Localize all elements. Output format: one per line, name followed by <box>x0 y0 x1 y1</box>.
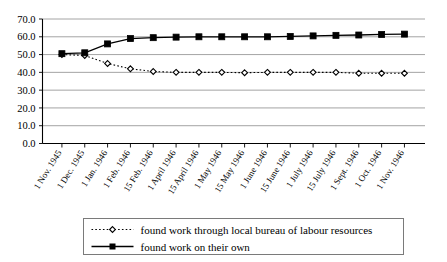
y-axis-tick-label: 20.0 <box>17 103 35 114</box>
data-point-marker <box>196 34 202 40</box>
data-point-marker <box>196 69 202 75</box>
data-point-marker <box>219 34 225 40</box>
data-point-marker <box>333 32 339 38</box>
data-point-marker <box>379 31 385 37</box>
series-line-1 <box>62 55 405 74</box>
data-point-marker <box>59 51 65 57</box>
legend-label-1: found work through local bureau of labou… <box>141 224 373 236</box>
data-point-marker <box>356 32 362 38</box>
data-point-marker <box>265 69 271 75</box>
data-point-marker <box>82 50 88 56</box>
y-axis-tick-label: 0.0 <box>22 138 35 149</box>
data-point-marker <box>310 33 316 39</box>
chart-container: 0.010.020.030.040.050.060.070.0 1 Nov. 1… <box>0 0 447 262</box>
y-axis-tick-label: 50.0 <box>17 49 35 60</box>
y-axis-tick-label: 30.0 <box>17 85 35 96</box>
y-axis-tick-label: 70.0 <box>17 14 35 25</box>
data-point-marker <box>287 33 293 39</box>
data-point-marker <box>264 34 270 40</box>
legend-marker-2 <box>110 244 116 250</box>
data-point-marker <box>333 69 339 75</box>
data-point-marker <box>150 69 156 75</box>
legend-label-2: found work on their own <box>141 241 251 253</box>
data-point-marker <box>310 69 316 75</box>
data-point-marker <box>128 66 134 72</box>
x-axis-labels-group: 1 Nov. 19451 Dec. 19451 Jan. 19461 Feb. … <box>32 148 407 196</box>
data-point-marker <box>173 34 179 40</box>
x-axis-ticks-group <box>62 144 405 148</box>
data-point-marker <box>401 31 407 37</box>
line-chart: 0.010.020.030.040.050.060.070.0 1 Nov. 1… <box>0 0 447 262</box>
data-point-marker <box>356 70 362 76</box>
data-point-marker <box>105 61 111 67</box>
data-point-marker <box>219 69 225 75</box>
data-point-marker <box>242 70 248 76</box>
y-axis-tick-label: 60.0 <box>17 31 35 42</box>
data-series-group <box>59 31 408 76</box>
y-axis-labels-group: 0.010.020.030.040.050.060.070.0 <box>17 14 35 150</box>
data-point-marker <box>402 70 408 76</box>
data-point-marker <box>242 34 248 40</box>
data-point-marker <box>379 70 385 76</box>
data-point-marker <box>173 69 179 75</box>
data-point-marker <box>150 35 156 41</box>
legend: found work through local bureau of labou… <box>84 219 404 255</box>
data-point-marker <box>127 36 133 42</box>
y-axis-tick-label: 10.0 <box>17 120 35 131</box>
data-point-marker <box>105 41 111 47</box>
axis-lines-group <box>43 19 426 144</box>
data-point-marker <box>287 69 293 75</box>
y-axis-tick-label: 40.0 <box>17 67 35 78</box>
